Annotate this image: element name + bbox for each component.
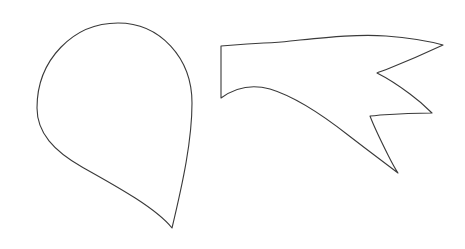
drawing-canvas — [0, 0, 465, 249]
shapes-figure — [0, 0, 465, 249]
